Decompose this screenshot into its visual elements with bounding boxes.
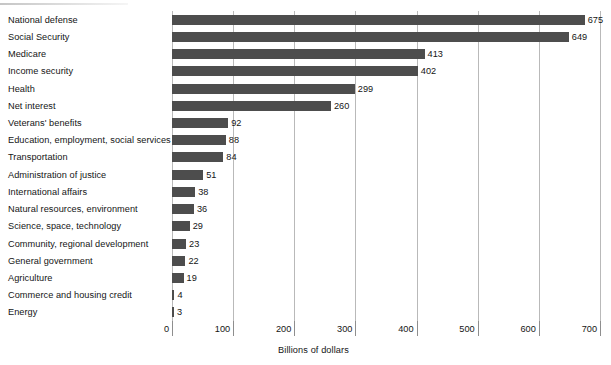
x-tick-label: 300: [337, 324, 355, 335]
x-tick-label: 600: [521, 324, 539, 335]
x-tick-200: [294, 321, 295, 336]
x-tick-0: [172, 321, 173, 336]
x-tick-500: [478, 321, 479, 336]
x-tick-label: 200: [276, 324, 294, 335]
x-tick-300: [355, 321, 356, 336]
x-axis-title-text: Billions of dollars: [278, 345, 349, 355]
x-tick-700: [600, 321, 601, 336]
x-tick-label: 0: [164, 324, 172, 335]
x-axis-title: Billions of dollars: [0, 345, 611, 355]
x-axis: 0100200300400500600700: [0, 0, 611, 365]
x-tick-600: [539, 321, 540, 336]
x-tick-label: 100: [215, 324, 233, 335]
chart-page: National defense675Social Security649Med…: [0, 0, 611, 365]
x-tick-100: [233, 321, 234, 336]
x-tick-label: 500: [459, 324, 477, 335]
x-tick-400: [417, 321, 418, 336]
x-tick-label: 700: [582, 324, 600, 335]
x-tick-label: 400: [398, 324, 416, 335]
horizontal-bar-chart: National defense675Social Security649Med…: [0, 0, 611, 365]
